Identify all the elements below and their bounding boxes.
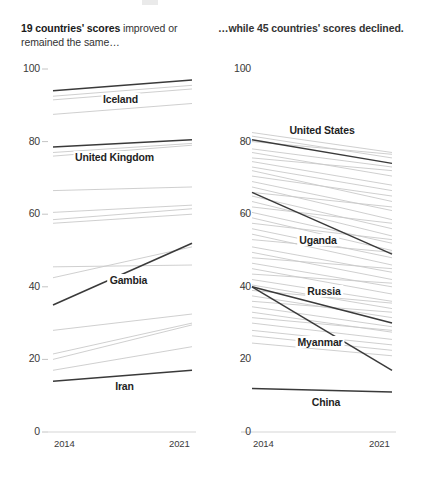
y-axis-tick-label-80: 80	[14, 135, 40, 147]
y-axis-tick-label-0: 0	[14, 425, 40, 437]
x-axis-start-label: 2014	[253, 438, 274, 449]
x-axis-end-label: 2021	[369, 438, 390, 449]
panel-improved: 19 countries' scores improved or remaine…	[0, 0, 212, 478]
background-slope-line	[252, 136, 392, 158]
x-axis-end-label: 2021	[169, 438, 190, 449]
y-axis-tick-label-20: 20	[14, 352, 40, 364]
y-axis-tick-label-80: 80	[225, 135, 251, 147]
background-slope-line	[252, 301, 392, 312]
x-axis-start-label: 2014	[54, 438, 75, 449]
series-label-iran: Iran	[113, 380, 136, 392]
background-slope-line	[53, 214, 192, 223]
background-slope-line	[53, 265, 192, 267]
background-slope-line	[53, 325, 192, 359]
y-axis-tick-label-0: 0	[225, 425, 251, 437]
background-slope-line	[53, 103, 192, 114]
series-label-myanmar: Myanmar	[295, 336, 344, 348]
series-label-united-kingdom: United Kingdom	[73, 151, 156, 163]
y-axis-tick-label-100: 100	[225, 62, 251, 74]
background-slope-line	[53, 247, 192, 278]
y-axis-tick-label-20: 20	[225, 352, 251, 364]
background-slope-line	[53, 205, 192, 212]
series-label-russia: Russia	[305, 285, 343, 297]
background-slope-line	[53, 209, 192, 220]
y-axis-tick-label-60: 60	[14, 207, 40, 219]
y-axis-tick-label-40: 40	[14, 280, 40, 292]
y-axis-tick-label-60: 60	[225, 207, 251, 219]
series-label-china: China	[310, 396, 342, 408]
background-slope-line	[53, 347, 192, 371]
series-label-united-states: United States	[287, 124, 356, 136]
series-label-uganda: Uganda	[297, 234, 339, 246]
highlighted-slope-line-united-kingdom[interactable]	[53, 140, 192, 147]
series-label-gambia: Gambia	[108, 274, 150, 286]
highlighted-slope-line-china[interactable]	[252, 388, 392, 392]
slopegraph-figure: 19 countries' scores improved or remaine…	[0, 0, 425, 478]
background-slope-line	[53, 187, 192, 191]
y-axis-tick-label-100: 100	[14, 62, 40, 74]
background-slope-line	[252, 192, 392, 207]
series-label-iceland: Iceland	[101, 93, 140, 105]
y-axis-tick-label-40: 40	[225, 280, 251, 292]
highlighted-slope-line-iceland[interactable]	[53, 80, 192, 91]
background-slope-line	[252, 162, 392, 186]
panel-declined: …while 45 countries' scores declined. 10…	[212, 0, 425, 478]
